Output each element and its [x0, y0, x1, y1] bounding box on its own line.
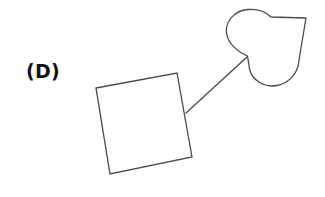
figure-panel: (D) — [0, 0, 325, 197]
canvas-background — [0, 0, 325, 197]
panel-label: (D) — [26, 62, 60, 81]
diagram-canvas — [0, 0, 325, 197]
